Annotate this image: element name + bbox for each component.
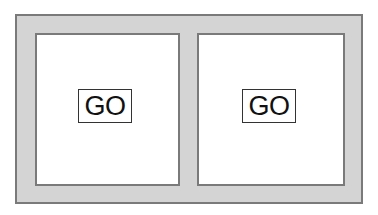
right-go-button[interactable]: GO: [242, 89, 296, 123]
right-panel: GO: [197, 33, 345, 186]
outer-frame: GO GO: [15, 14, 363, 204]
left-go-button[interactable]: GO: [78, 89, 132, 123]
left-panel: GO: [35, 33, 180, 186]
